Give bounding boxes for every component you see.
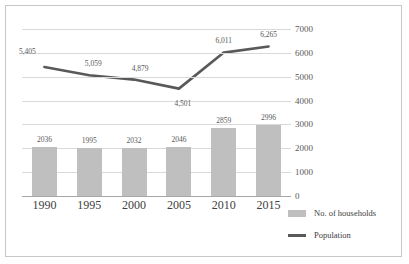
line-value-label: 4,879 bbox=[118, 64, 163, 73]
line-value-label: 6,265 bbox=[246, 30, 291, 39]
line-value-label: 5,059 bbox=[71, 59, 116, 68]
chart-figure: 2036199520322046285929965,4055,0594,8794… bbox=[5, 5, 402, 257]
bar bbox=[122, 148, 147, 196]
gridline bbox=[22, 53, 291, 54]
x-axis-tick-label: 2005 bbox=[167, 198, 191, 213]
gridline bbox=[22, 172, 291, 173]
bar-value-label: 2996 bbox=[246, 113, 291, 122]
line-swatch-icon bbox=[288, 234, 306, 237]
axis-baseline bbox=[22, 196, 291, 197]
bar bbox=[32, 147, 57, 196]
gridline bbox=[22, 101, 291, 102]
plot-area: 2036199520322046285929965,4055,0594,8794… bbox=[22, 29, 291, 196]
line-value-label: 5,405 bbox=[5, 47, 50, 56]
bar-swatch-icon bbox=[288, 210, 306, 217]
x-axis-tick-label: 2015 bbox=[257, 198, 281, 213]
legend-item-population[interactable]: Population bbox=[288, 224, 398, 246]
y-axis-tick-label: 0 bbox=[295, 191, 300, 201]
y-axis-tick-label: 6000 bbox=[295, 48, 313, 58]
bar bbox=[77, 148, 102, 196]
x-axis-tick-label: 1990 bbox=[32, 198, 56, 213]
y-axis: 01000200030004000500060007000 bbox=[295, 29, 335, 196]
chart-legend: No. of households Population bbox=[288, 202, 398, 246]
gridline bbox=[22, 124, 291, 125]
legend-item-households[interactable]: No. of households bbox=[288, 202, 398, 224]
y-axis-tick-label: 5000 bbox=[295, 72, 313, 82]
gridline bbox=[22, 77, 291, 78]
y-axis-tick-label: 1000 bbox=[295, 167, 313, 177]
y-axis-tick-label: 2000 bbox=[295, 143, 313, 153]
bar-value-label: 2032 bbox=[112, 136, 157, 145]
legend-label-households: No. of households bbox=[314, 208, 376, 218]
legend-label-population: Population bbox=[314, 230, 351, 240]
line-value-label: 6,011 bbox=[201, 36, 246, 45]
bar bbox=[166, 147, 191, 196]
x-axis-tick-label: 1995 bbox=[77, 198, 101, 213]
bar bbox=[256, 125, 281, 196]
line-value-label: 4,501 bbox=[161, 99, 206, 108]
x-axis-tick-label: 2010 bbox=[212, 198, 236, 213]
bar bbox=[211, 128, 236, 196]
x-axis: 199019952000200520102015 bbox=[22, 198, 291, 218]
gridline bbox=[22, 148, 291, 149]
bar-value-label: 2859 bbox=[201, 116, 246, 125]
bar-value-label: 1995 bbox=[67, 136, 112, 145]
bar-value-label: 2036 bbox=[22, 135, 67, 144]
y-axis-tick-label: 3000 bbox=[295, 119, 313, 129]
x-axis-tick-label: 2000 bbox=[122, 198, 146, 213]
y-axis-tick-label: 4000 bbox=[295, 96, 313, 106]
y-axis-tick-label: 7000 bbox=[295, 24, 313, 34]
bar-value-label: 2046 bbox=[157, 135, 202, 144]
